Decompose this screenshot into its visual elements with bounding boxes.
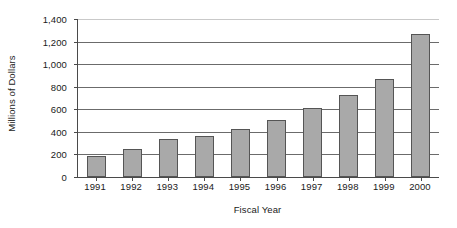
x-tick-mark: [204, 177, 205, 181]
x-tick-label: 1991: [84, 181, 106, 192]
x-tick-mark: [421, 177, 422, 181]
bars-group: [78, 19, 439, 177]
bar: [339, 95, 358, 177]
y-tick-label: 1,200: [43, 36, 67, 47]
x-tick-mark: [240, 177, 241, 181]
y-tick-label: 800: [51, 81, 67, 92]
x-tick-label: 2000: [409, 181, 431, 192]
x-tick-mark: [168, 177, 169, 181]
x-tick-label: 1995: [229, 181, 251, 192]
x-tick-label: 1994: [193, 181, 215, 192]
x-axis-title-label: Fiscal Year: [234, 204, 282, 215]
x-tick-mark: [349, 177, 350, 181]
y-axis-title-label: Millions of Dollars: [6, 55, 17, 131]
plot-area: [77, 19, 439, 178]
x-tick-label: 1996: [265, 181, 287, 192]
y-tick-label: 200: [51, 149, 67, 160]
y-tick-mark: [74, 154, 78, 155]
y-tick-mark: [74, 87, 78, 88]
x-tick-label: 1993: [156, 181, 178, 192]
x-tick-mark: [385, 177, 386, 181]
y-tick-mark: [74, 109, 78, 110]
y-tick-label: 1,000: [43, 59, 67, 70]
y-tick-mark: [74, 42, 78, 43]
y-axis-title: Millions of Dollars: [0, 0, 22, 186]
x-tick-label: 1992: [120, 181, 142, 192]
bar: [123, 149, 142, 177]
x-axis-tick-labels: 1991199219931994199519961997199819992000: [77, 181, 438, 199]
x-axis-title: Fiscal Year: [77, 204, 438, 215]
y-tick-label: 600: [51, 104, 67, 115]
bar: [159, 139, 178, 177]
y-tick-label: 1,400: [43, 14, 67, 25]
x-tick-mark: [96, 177, 97, 181]
y-axis-tick-labels: 02004006008001,0001,2001,400: [22, 0, 71, 186]
y-tick-mark: [74, 177, 78, 178]
x-tick-label: 1999: [373, 181, 395, 192]
bar: [87, 156, 106, 177]
y-tick-label: 0: [62, 172, 67, 183]
bar: [231, 129, 250, 177]
x-tick-mark: [132, 177, 133, 181]
bar: [411, 34, 430, 177]
bar: [267, 120, 286, 177]
bar-chart: Millions of Dollars 02004006008001,0001,…: [0, 0, 457, 228]
x-tick-label: 1998: [337, 181, 359, 192]
x-tick-label: 1997: [301, 181, 323, 192]
x-tick-mark: [277, 177, 278, 181]
bar: [375, 79, 394, 177]
bar: [303, 108, 322, 177]
y-tick-mark: [74, 132, 78, 133]
y-tick-label: 400: [51, 126, 67, 137]
bar: [195, 136, 214, 177]
x-tick-mark: [313, 177, 314, 181]
y-tick-mark: [74, 19, 78, 20]
y-tick-mark: [74, 64, 78, 65]
